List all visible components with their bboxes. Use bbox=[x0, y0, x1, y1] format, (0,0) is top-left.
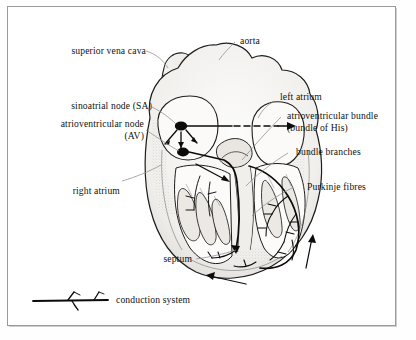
label-bundle-branches: bundle branches bbox=[296, 146, 361, 157]
label-atrioventricular-node-line2: (AV) bbox=[18, 130, 144, 141]
label-atrioventricular-node-line1: atrioventricular node bbox=[18, 118, 144, 129]
sinoatrial-node-marker bbox=[175, 121, 187, 130]
heart-organ bbox=[145, 43, 322, 278]
legend-label-conduction-system: conduction system bbox=[116, 294, 190, 305]
atrioventricular-node-marker bbox=[177, 148, 189, 157]
label-sinoatrial-node: sinoatrial node (SA) bbox=[20, 100, 152, 111]
label-left-atrium: left atrium bbox=[280, 91, 322, 102]
label-septum: septum bbox=[130, 253, 192, 264]
figure-root: superior vena cava aorta sinoatrial node… bbox=[0, 0, 416, 340]
label-right-atrium: right atrium bbox=[46, 185, 120, 196]
label-av-bundle-line1: atrioventricular bundle bbox=[287, 110, 378, 121]
label-aorta: aorta bbox=[240, 35, 260, 46]
label-superior-vena-cava: superior vena cava bbox=[24, 45, 146, 56]
label-purkinje-fibres: Purkinje fibres bbox=[307, 181, 366, 192]
legend-symbol-branching-line-icon bbox=[33, 292, 108, 310]
label-av-bundle-line2: (bundle of His) bbox=[287, 122, 348, 133]
